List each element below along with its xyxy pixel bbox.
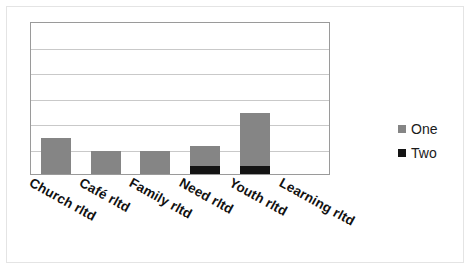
bar-segment-one[interactable] [140,151,170,174]
bar-segment-two[interactable] [240,166,270,174]
bar-segment-one[interactable] [190,146,220,166]
stacked-bar-chart: Church rltdCafé rltdFamily rltdNeed rltd… [0,0,472,271]
legend-item-two[interactable]: Two [398,142,464,163]
bar-stack[interactable] [140,151,170,174]
legend-item-one[interactable]: One [398,118,464,139]
bar-stack[interactable] [240,113,270,174]
legend-label: Two [411,146,437,160]
bar-segment-one[interactable] [240,113,270,167]
bar-slot [81,23,131,174]
bar-stack[interactable] [91,151,121,174]
chart-legend: OneTwo [398,118,464,166]
legend-label: One [411,122,437,136]
bar-segment-two[interactable] [190,166,220,174]
bar-slot [31,23,81,174]
bar-stack[interactable] [190,146,220,174]
legend-swatch-icon [398,149,406,157]
plot-area [30,22,330,175]
legend-swatch-icon [398,125,406,133]
bar-segment-one[interactable] [41,138,71,174]
bar-slot [180,23,230,174]
bars-layer [31,23,329,174]
bar-segment-one[interactable] [91,151,121,174]
bar-slot [130,23,180,174]
x-axis-category-labels: Church rltdCafé rltdFamily rltdNeed rltd… [30,175,330,255]
chart-screenshot: Church rltdCafé rltdFamily rltdNeed rltd… [0,0,472,271]
bar-stack[interactable] [41,138,71,174]
bar-slot [279,23,329,174]
bar-slot [230,23,280,174]
